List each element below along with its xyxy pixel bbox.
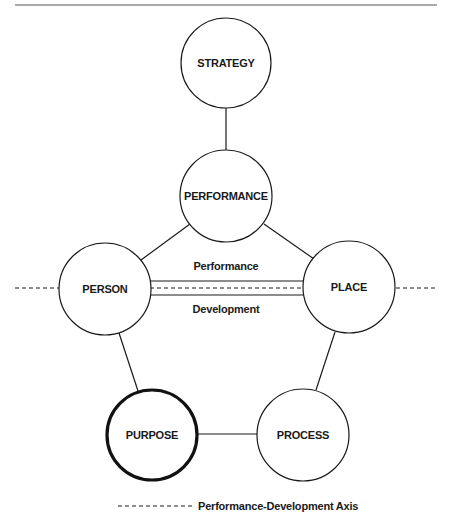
node-strategy: STRATEGY bbox=[181, 18, 271, 108]
edge-place-process bbox=[316, 332, 335, 390]
node-label-process: PROCESS bbox=[277, 429, 329, 441]
node-label-strategy: STRATEGY bbox=[197, 57, 255, 69]
edge-performance-place bbox=[264, 224, 314, 259]
node-place: PLACE bbox=[303, 241, 395, 333]
node-person: PERSON bbox=[59, 243, 151, 335]
node-label-place: PLACE bbox=[331, 281, 367, 293]
node-label-performance: PERFORMANCE bbox=[184, 190, 268, 202]
axis-bottom-label: Development bbox=[193, 303, 260, 315]
legend: Performance-Development Axis bbox=[118, 500, 358, 512]
edge-person-purpose bbox=[119, 333, 138, 391]
axis-top-label: Performance bbox=[193, 260, 258, 272]
legend-label: Performance-Development Axis bbox=[198, 500, 358, 512]
node-process: PROCESS bbox=[257, 389, 349, 481]
node-label-purpose: PURPOSE bbox=[126, 429, 178, 441]
edge-performance-person bbox=[141, 224, 190, 260]
node-performance: PERFORMANCE bbox=[180, 150, 272, 242]
node-label-person: PERSON bbox=[82, 283, 128, 295]
diagram-canvas: Performance Development STRATEGY PERFORM… bbox=[0, 0, 450, 522]
node-purpose: PURPOSE bbox=[107, 390, 197, 480]
